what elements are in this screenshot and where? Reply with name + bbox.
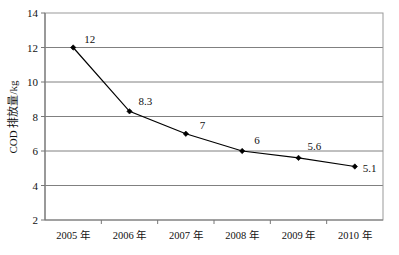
x-axis-category-labels: 2005 年2006 年2007 年2008 年2009 年2010 年 [56, 229, 371, 241]
x-axis-label: 2010 年 [338, 229, 372, 241]
y-tick-label: 6 [33, 145, 39, 157]
y-tick-label: 14 [27, 7, 39, 19]
data-point-label: 5.6 [308, 140, 322, 152]
data-point-label: 8.3 [139, 95, 153, 107]
y-tick-label: 8 [33, 111, 39, 123]
x-axis-label: 2008 年 [225, 229, 259, 241]
y-axis-title: COD 排放量/kg [6, 80, 19, 154]
x-axis-label: 2009 年 [282, 229, 316, 241]
line-chart: 2468101214 2005 年2006 年2007 年2008 年2009 … [0, 0, 399, 255]
y-tick-label: 12 [27, 42, 38, 54]
y-axis-ticks: 2468101214 [27, 7, 45, 226]
y-tick-label: 2 [33, 214, 39, 226]
x-axis-ticks [101, 220, 326, 224]
x-axis-label: 2007 年 [169, 229, 203, 241]
x-axis-label: 2006 年 [113, 229, 147, 241]
data-point-label: 5.1 [363, 162, 377, 174]
y-tick-label: 10 [27, 76, 39, 88]
chart-container: 2468101214 2005 年2006 年2007 年2008 年2009 … [0, 0, 399, 255]
x-axis-label: 2005 年 [56, 229, 90, 241]
y-tick-label: 4 [33, 180, 39, 192]
data-point-label: 12 [84, 33, 95, 45]
data-point-label: 6 [254, 134, 260, 146]
data-point-label: 7 [200, 119, 206, 131]
